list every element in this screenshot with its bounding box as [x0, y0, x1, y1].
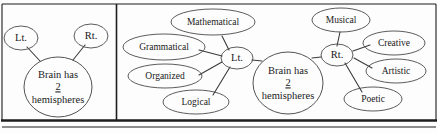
leaf-organized-label: Organized [145, 71, 185, 81]
right-panel: Brain has 2 hemispheres Lt. Rt. Mathemat… [123, 8, 426, 114]
left-panel-edges [27, 45, 85, 61]
right-center-line-3: hemispheres [262, 90, 315, 101]
leaf-creative-label: Creative [378, 38, 410, 48]
left-center-line-2: 2 [55, 81, 60, 92]
leaf-mathematical-label: Mathematical [187, 17, 240, 27]
edge-lt-to-logical [213, 67, 230, 95]
edge-rt-to-poetic [345, 63, 362, 92]
leaf-grammatical-label: Grammatical [139, 42, 189, 52]
right-node-lt-label: Lt. [231, 52, 243, 63]
edge-rt-to-center [312, 57, 321, 58]
right-node-rt-label: Rt. [331, 49, 344, 60]
edge-lt-to-center [252, 60, 262, 61]
edge-lt-to-mathematical [222, 36, 229, 50]
leaf-artistic-label: Artistic [382, 66, 411, 76]
left-node-rt-label: Rt. [85, 30, 98, 41]
diagram-canvas: Brain has 2 hemispheres Lt. Rt. [0, 0, 438, 133]
left-panel: Brain has 2 hemispheres Lt. Rt. [4, 24, 108, 117]
edge-center-to-rt [73, 45, 85, 60]
edge-lt-to-organized [199, 62, 222, 75]
right-center-line-2: 2 [285, 77, 290, 88]
right-center-line-1: Brain has [268, 65, 308, 76]
left-center-line-1: Brain has [38, 69, 78, 80]
left-node-lt-label: Lt. [15, 32, 27, 43]
left-center-line-3: hemispheres [32, 94, 85, 105]
leaf-poetic-label: Poetic [361, 94, 385, 104]
leaf-logical-label: Logical [181, 97, 210, 107]
leaf-musical-label: Musical [326, 15, 357, 25]
